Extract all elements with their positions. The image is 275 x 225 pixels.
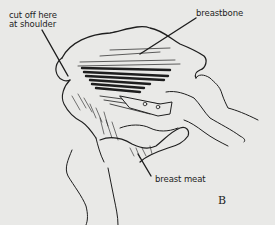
illustration: [0, 0, 275, 225]
label-cut-off-at-shoulder: cut off here at shoulder: [9, 11, 57, 29]
knife: [120, 96, 172, 116]
leader-line-breast-meat: [138, 154, 151, 176]
label-breastbone: breastbone: [196, 9, 243, 18]
left-arm: [66, 150, 87, 225]
leader-line-shoulder: [42, 30, 68, 76]
figure-letter: B: [218, 194, 226, 207]
right-hand: [166, 91, 245, 142]
label-breast-meat: breast meat: [155, 175, 206, 184]
label-cut-line2: at shoulder: [9, 20, 57, 29]
breastbone-shading: [82, 68, 170, 92]
leader-line-breastbone: [140, 18, 196, 54]
